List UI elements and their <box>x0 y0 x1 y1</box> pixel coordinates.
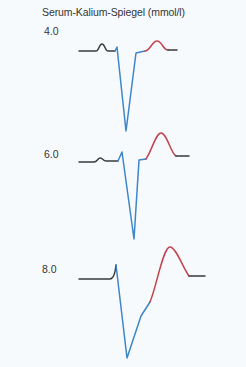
ecg-qrs-complex <box>116 265 150 358</box>
ecg-baseline <box>79 265 116 279</box>
ecg-qrs-complex <box>118 152 146 239</box>
ecg-baseline-p-wave <box>79 158 118 162</box>
ecg-trace-4 <box>79 41 177 131</box>
ecg-t-wave <box>145 41 168 51</box>
ecg-diagram <box>0 0 246 367</box>
ecg-trace-6 <box>79 133 189 239</box>
ecg-trace-8 <box>79 247 205 358</box>
ecg-t-wave <box>150 247 189 302</box>
ecg-t-wave <box>146 133 176 159</box>
ecg-baseline-p-wave <box>79 44 115 51</box>
ecg-qrs-complex <box>115 47 145 131</box>
